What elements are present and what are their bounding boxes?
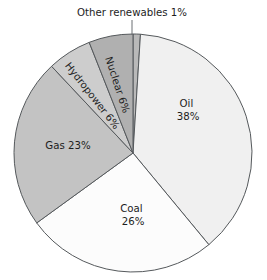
slice-label-oil-value: 38% [177, 111, 200, 122]
slice-label-gas: Gas 23% [45, 140, 91, 151]
slice-label-coal-value: 26% [122, 216, 145, 227]
pie-chart-canvas: Other renewables 1% Oil 38% Coal 26% Gas… [0, 0, 267, 280]
slice-label-other-renewables: Other renewables 1% [77, 7, 187, 18]
pie-chart: Other renewables 1% Oil 38% Coal 26% Gas… [0, 0, 267, 280]
pie-slices-group [14, 34, 252, 272]
slice-label-oil-name: Oil [180, 98, 194, 109]
slice-label-coal-name: Coal [120, 203, 142, 214]
